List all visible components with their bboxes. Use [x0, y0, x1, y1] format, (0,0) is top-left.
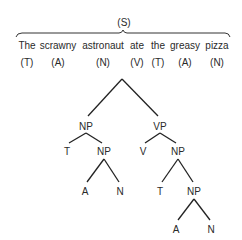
edge-np3-np — [178, 159, 193, 182]
word-tag: (A) — [51, 58, 64, 68]
tree-node-a2: A — [173, 225, 180, 235]
tree-node-np2: NP — [97, 147, 111, 157]
tree-node-t2: T — [157, 187, 163, 197]
tree-node-np4: NP — [187, 187, 201, 197]
edge-np4-n — [194, 199, 210, 220]
word: greasy — [170, 41, 200, 51]
word: The — [18, 41, 35, 51]
edge-s-np — [88, 79, 122, 116]
tree-node-np3: NP — [171, 147, 185, 157]
word-tag: (A) — [178, 58, 191, 68]
tree-node-v: V — [140, 147, 147, 157]
edge-np3-t — [162, 159, 178, 182]
tree-node-np1: NP — [79, 122, 93, 132]
edge-np2-n — [104, 159, 119, 182]
edge-vp-np — [160, 133, 176, 143]
tree-node-n2: N — [207, 225, 214, 235]
edge-vp-v — [145, 133, 160, 143]
edge-np-t — [69, 133, 86, 143]
edge-np2-a — [87, 159, 104, 182]
word-tag: (V) — [130, 58, 143, 68]
word: astronaut — [82, 41, 124, 51]
tree-node-t1: T — [64, 147, 70, 157]
word-tag: (T) — [152, 58, 165, 68]
word: scrawny — [40, 41, 77, 51]
edge-np4-a — [178, 199, 194, 220]
edge-np-np — [86, 133, 102, 143]
tree-node-vp: VP — [153, 122, 166, 132]
sentence-label: (S) — [117, 18, 130, 28]
word-tag: (N) — [96, 58, 110, 68]
word: pizza — [205, 41, 228, 51]
word: the — [151, 41, 165, 51]
tree-node-a1: A — [82, 187, 89, 197]
word-tag: (T) — [21, 58, 34, 68]
word: ate — [130, 41, 144, 51]
edge-s-vp — [122, 79, 158, 116]
word-tag: (N) — [210, 58, 224, 68]
sentence-brace — [16, 30, 230, 37]
tree-edges — [0, 0, 242, 240]
tree-node-n1: N — [116, 187, 123, 197]
